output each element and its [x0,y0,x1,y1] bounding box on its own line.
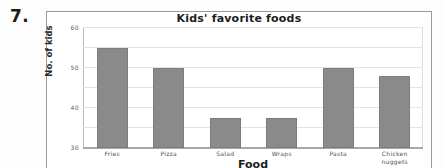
y-axis-title: No. of kids [44,16,56,86]
question-number: 7. [10,6,29,26]
y-axis-tick-label: 40 [71,104,79,111]
bar [266,118,297,148]
bar-slot [84,28,141,148]
chart-title: Kids' favorite foods [46,12,432,25]
bar-slot [367,28,424,148]
bar [153,68,184,148]
bar [323,68,354,148]
worksheet-page: 7. Kids' favorite foods No. of kids 0102… [0,0,446,168]
bar-series [84,28,423,148]
bar [97,48,128,148]
x-axis-line [83,148,423,149]
bar-slot [254,28,311,148]
plot-area: 0102030405060 [83,27,423,149]
bar-slot [197,28,254,148]
bar [379,76,410,148]
y-axis-tick-label: 50 [71,64,79,71]
y-axis-tick-label: 60 [71,24,79,31]
y-axis-tick-label: 30 [71,144,79,151]
bar [210,118,241,148]
bar-slot [141,28,198,148]
x-axis-title: Food [83,158,423,168]
bar-slot [310,28,367,148]
